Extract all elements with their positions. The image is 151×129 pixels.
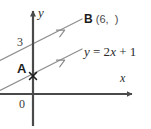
- point-b-label: B (6, ): [84, 13, 118, 25]
- point-b-letter: B: [84, 12, 93, 26]
- y-axis-label: y: [38, 6, 44, 19]
- equation-operator: = 2: [90, 44, 110, 59]
- line-equation-label: y = 2x + 1: [84, 45, 136, 58]
- point-a-label: A: [17, 62, 26, 75]
- x-axis-label: x: [120, 72, 125, 84]
- line-y-equals-2x-plus-1: [0, 49, 82, 91]
- origin-label: 0: [19, 98, 25, 110]
- point-b-coordinates: (6, ): [96, 13, 119, 25]
- line-parallel-upper: [0, 19, 82, 61]
- coordinate-diagram: y x 0 3 A B (6, ) y = 2x + 1: [0, 0, 151, 129]
- equation-constant: + 1: [116, 44, 136, 59]
- y-intercept-tick-label: 3: [17, 36, 23, 48]
